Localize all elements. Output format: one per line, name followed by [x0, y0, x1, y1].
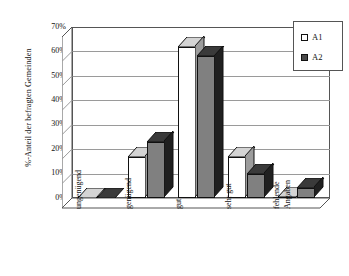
x-label-line-1: sehr gut: [224, 183, 233, 209]
legend-label-a2: A2: [312, 53, 322, 61]
x-label-line-1: genügend: [124, 178, 133, 209]
x-tick-label-ungenuegend: ungenügend: [74, 170, 83, 209]
bar-a2-fehlende-angaben: [297, 188, 315, 198]
bar-group-gut: [178, 43, 222, 198]
x-tick-label-genuegend: genügend: [124, 178, 133, 209]
bar-a2-gut: [197, 56, 215, 198]
bar-group-sehr-gut: [228, 148, 272, 198]
chart-3d-column: %-Anteil der befragten Gemeinden 70% 60%…: [0, 0, 349, 276]
bar-a2-sehr-gut: [247, 174, 265, 198]
x-label-line-1: gut: [174, 199, 183, 209]
legend-entry-a1: A1: [301, 33, 322, 41]
bar-a2-ungenuegend: [97, 197, 115, 198]
x-label-line-1: ungenügend: [74, 170, 83, 209]
legend-label-a1: A1: [312, 33, 322, 41]
x-label-line-2: Angaben: [283, 180, 292, 209]
x-label-line-1: fehlende: [272, 181, 281, 209]
legend-swatch-a2-icon: [301, 54, 308, 61]
plot-area: [72, 27, 330, 198]
legend-swatch-a1-icon: [301, 34, 308, 41]
bar-group-ungenuegend: [78, 197, 122, 198]
x-tick-label-angaben: Angaben: [283, 180, 292, 209]
y-axis-title: %-Anteil der befragten Gemeinden: [24, 23, 33, 193]
legend-entry-a2: A2: [301, 53, 322, 61]
bar-a2-genuegend: [147, 142, 165, 198]
bar-group-genuegend: [128, 138, 172, 198]
chart-legend: A1 A2: [293, 21, 343, 71]
x-tick-label-gut: gut: [174, 199, 183, 209]
bar-a1-gut: [178, 47, 196, 198]
plot-side-wall: [62, 27, 72, 198]
x-tick-label-fehlende: fehlende: [272, 181, 281, 209]
x-tick-label-sehr-gut: sehr gut: [224, 183, 233, 209]
